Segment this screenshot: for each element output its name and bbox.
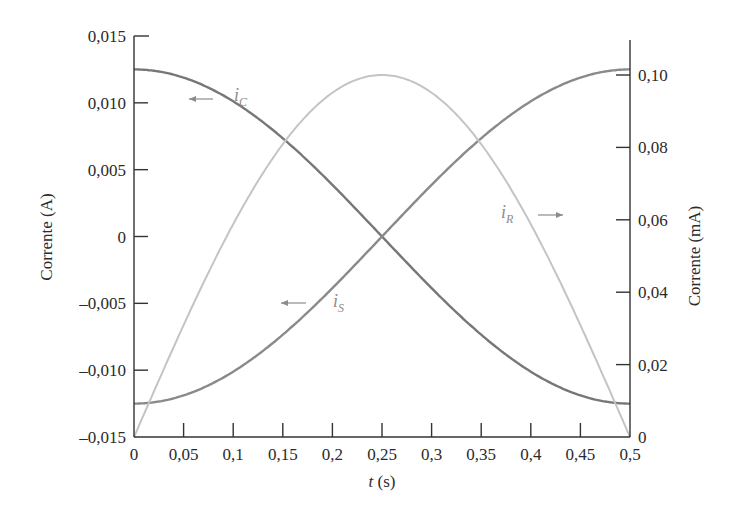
left-axis-title: Corrente (A) <box>37 193 56 280</box>
curve-labels-layer: iCiSiR <box>189 85 563 315</box>
x-tick-label: 0,15 <box>268 445 298 464</box>
left-tick-label: –0,010 <box>78 361 126 380</box>
left-tick-label: –0,005 <box>78 294 126 313</box>
curve-iS <box>134 69 630 403</box>
label-iC-arrowhead-icon <box>189 96 196 102</box>
x-tick-label: 0,35 <box>466 445 496 464</box>
right-tick-label: 0,06 <box>638 211 668 230</box>
left-tick-label: –0,015 <box>78 428 126 447</box>
left-tick-label: 0,015 <box>88 27 126 46</box>
left-tick-label: 0,005 <box>88 161 126 180</box>
right-tick-label: 0,04 <box>638 283 668 302</box>
right-axis-title: Corrente (mA) <box>685 206 704 307</box>
right-tick-label: 0,08 <box>638 138 668 157</box>
current-chart: 0,0150,0100,0050–0,005–0,010–0,01500,050… <box>0 0 740 520</box>
right-tick-label: 0,10 <box>638 66 668 85</box>
chart-svg: 0,0150,0100,0050–0,005–0,010–0,01500,050… <box>0 0 740 520</box>
left-tick-label: 0,010 <box>88 94 126 113</box>
label-iC: iC <box>234 85 248 109</box>
x-tick-label: 0,2 <box>322 445 343 464</box>
left-tick-label: 0 <box>118 228 127 247</box>
label-iR: iR <box>501 202 514 226</box>
x-axis-title: t (s) <box>369 472 396 491</box>
x-tick-label: 0,5 <box>619 445 640 464</box>
x-tick-label: 0 <box>130 445 139 464</box>
right-tick-label: 0 <box>638 428 647 447</box>
x-tick-label: 0,05 <box>169 445 199 464</box>
label-iS: iS <box>333 291 344 315</box>
curve-iR <box>134 75 630 437</box>
x-tick-label: 0,3 <box>421 445 442 464</box>
label-iS-arrowhead-icon <box>281 300 288 306</box>
x-tick-label: 0,45 <box>566 445 596 464</box>
x-tick-label: 0,4 <box>520 445 542 464</box>
curves-layer <box>134 69 630 437</box>
right-tick-label: 0,02 <box>638 356 668 375</box>
label-iR-arrowhead-icon <box>556 212 563 218</box>
x-tick-label: 0,1 <box>223 445 244 464</box>
axes-layer: 0,0150,0100,0050–0,005–0,010–0,01500,050… <box>37 27 704 491</box>
x-tick-label: 0,25 <box>367 445 397 464</box>
